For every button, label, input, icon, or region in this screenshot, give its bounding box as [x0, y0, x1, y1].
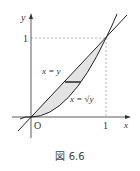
- curve-x-equals-sqrt-y: [20, 14, 117, 119]
- figure-caption: 図 6.6: [0, 148, 140, 163]
- y-tick-label: 1: [23, 34, 28, 44]
- curve1-label: x = y: [42, 67, 61, 76]
- x-axis-label: x: [124, 121, 128, 130]
- y-axis-label: y: [21, 13, 25, 23]
- diagram: [0, 0, 140, 171]
- origin-label: O: [34, 121, 41, 131]
- x-tick-label: 1: [103, 121, 108, 131]
- x-axis-arrow-icon: [125, 115, 131, 119]
- curve2-label: x = √y: [70, 95, 94, 104]
- line-x-equals-y: [18, 15, 127, 131]
- y-axis-arrow-icon: [29, 13, 33, 19]
